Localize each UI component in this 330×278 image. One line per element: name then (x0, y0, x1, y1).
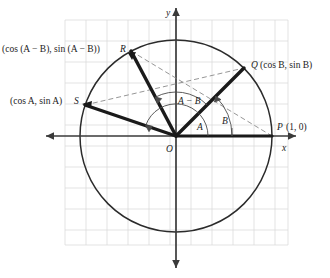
point-p-label: P (276, 122, 283, 132)
point-q-label: Q (251, 60, 258, 70)
point-q-coords: (cos B, sin B) (260, 60, 312, 71)
unit-circle-diagram: y x O (cos (A − B), sin (A − B)) R (cos … (0, 0, 330, 278)
point-s-label: S (74, 96, 79, 106)
point-p-coords: (1, 0) (286, 122, 307, 133)
point-r-coords: (cos (A − B), sin (A − B)) (2, 44, 100, 55)
angle-a-minus-b-label: A − B (177, 96, 201, 106)
angle-b-label: B (222, 116, 228, 126)
x-axis-label: x (281, 143, 287, 153)
canvas-background (0, 0, 330, 278)
angle-a-label: A (196, 122, 203, 132)
origin-label: O (166, 144, 173, 154)
point-r-label: R (119, 44, 126, 54)
y-axis-label: y (165, 8, 171, 18)
point-s-coords: (cos A, sin A) (10, 96, 62, 107)
